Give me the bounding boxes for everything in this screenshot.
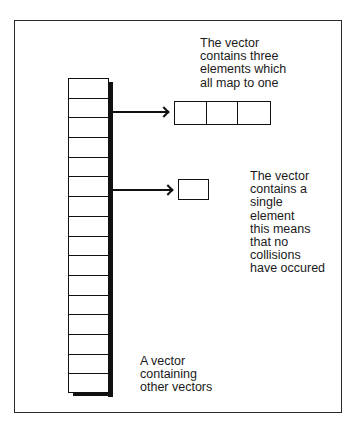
- outer-vector-cell: [68, 334, 109, 354]
- inner-vector-cell: [175, 102, 207, 124]
- caption-line: single: [250, 196, 325, 209]
- outer-vector-cell: [68, 137, 109, 157]
- outer-vector-cell: [68, 236, 109, 256]
- caption-line: element: [250, 210, 325, 223]
- outer-vector-cell: [68, 216, 109, 236]
- caption-line: have occured: [250, 262, 325, 275]
- outer-vector-cell: [68, 255, 109, 275]
- outer-vector-cell: [68, 78, 109, 98]
- inner-vector-cell: [238, 102, 270, 124]
- caption-line: other vectors: [140, 381, 212, 394]
- outer-vector-cell: [68, 354, 109, 374]
- caption-line: elements which: [200, 63, 286, 76]
- three-element-vector-caption: The vectorcontains threeelements whichal…: [200, 37, 286, 90]
- outer-vector-cell: [68, 314, 109, 334]
- outer-vector-cell: [68, 275, 109, 295]
- outer-vector: [68, 78, 110, 393]
- single-element-vector-caption: The vectorcontains asingleelementthis me…: [250, 170, 325, 276]
- outer-vector-cell: [68, 117, 109, 137]
- outer-vector-cell: [68, 157, 109, 177]
- outer-vector-cell: [68, 295, 109, 315]
- single-element-vector: [178, 179, 209, 200]
- three-element-vector: [174, 101, 271, 125]
- outer-vector-caption: A vectorcontainingother vectors: [140, 355, 212, 395]
- outer-vector-cell: [68, 98, 109, 118]
- outer-vector-cell: [68, 373, 109, 393]
- outer-vector-cell: [68, 196, 109, 216]
- outer-vector-cell: [68, 176, 109, 196]
- inner-vector-cell: [207, 102, 239, 124]
- caption-line: all map to one: [200, 77, 286, 90]
- inner-vector-cell: [179, 180, 208, 199]
